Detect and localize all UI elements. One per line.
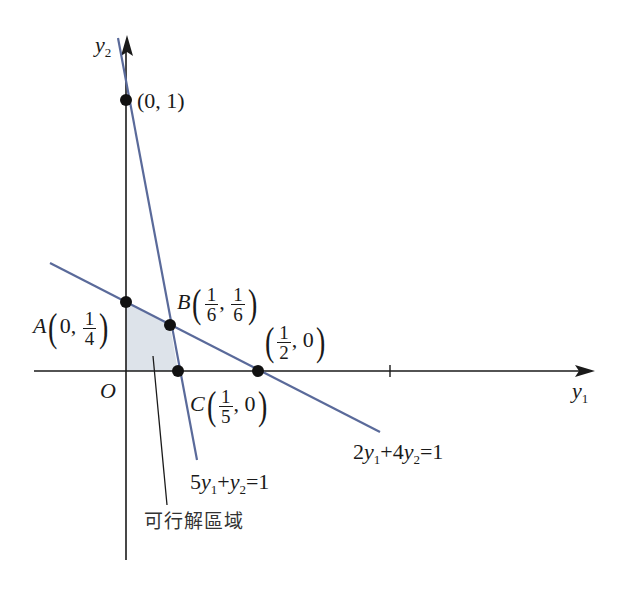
equation-label-2y1-4y2: 2y1+4y2=1 — [353, 441, 443, 466]
point-label-A: A(0, 14) — [33, 308, 111, 348]
diagram-canvas — [0, 0, 634, 589]
origin-label: O — [100, 380, 116, 402]
point-C — [172, 365, 184, 377]
point-label-half-0: (12, 0) — [263, 322, 327, 362]
point-label-0-1: (0, 1) — [137, 90, 185, 112]
point-label-B: B(16, 16) — [177, 284, 259, 324]
point-0-1 — [120, 94, 132, 106]
point-B — [164, 319, 176, 331]
y1-axis-label: y1 — [572, 380, 588, 405]
equation-label-5y1-y2: 5y1+y2=1 — [190, 471, 269, 496]
point-A — [120, 296, 132, 308]
feasible-region-label: 可行解區域 — [144, 512, 244, 531]
point-label-C: C(15, 0) — [190, 386, 269, 426]
point-half-0 — [252, 365, 264, 377]
region-leader-line — [153, 356, 167, 505]
y-axis-arrow-icon — [121, 35, 133, 56]
y2-axis-label: y2 — [95, 34, 111, 59]
